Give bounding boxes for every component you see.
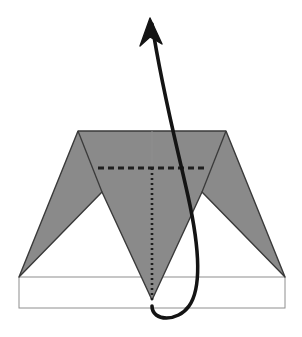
diagram-canvas [0, 0, 302, 337]
figure-root: Folded paper dart diagram with upward cu… [0, 0, 302, 337]
